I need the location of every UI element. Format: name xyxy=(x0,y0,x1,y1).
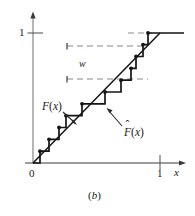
true-cdf-label-paren-close: ) xyxy=(58,100,62,112)
y-axis-arrowhead xyxy=(30,12,35,19)
empirical-cdf-staircase xyxy=(33,33,184,163)
x-axis-tick-label-1: 1 xyxy=(157,168,163,179)
step-dot xyxy=(146,31,150,35)
step-dot xyxy=(129,66,133,70)
circumflex-accent-icon: ˆ xyxy=(126,120,130,132)
cdf-plot xyxy=(0,0,195,216)
empirical-cdf-leader-arrowhead xyxy=(107,108,113,113)
x-axis-arrowhead xyxy=(179,160,186,165)
step-dot xyxy=(80,102,84,106)
width-annotation-label: w xyxy=(79,59,86,69)
step-dot xyxy=(141,43,145,47)
empirical-cdf-label-F-hat: ˆF xyxy=(124,127,131,139)
step-dot xyxy=(119,78,123,82)
figure-caption: (b) xyxy=(88,190,101,201)
true-cdf-label: F(x) xyxy=(42,101,62,113)
step-dot xyxy=(57,126,61,130)
empirical-cdf-paren-close: ) xyxy=(140,126,144,138)
true-cdf-line xyxy=(33,33,160,163)
x-axis-label: x xyxy=(174,167,179,178)
step-dot xyxy=(47,137,51,141)
step-dot xyxy=(38,149,42,153)
step-dot xyxy=(134,55,138,59)
empirical-cdf-label: ˆF(x) xyxy=(124,127,144,139)
step-dot xyxy=(103,90,107,94)
true-cdf-label-F: F xyxy=(42,100,49,112)
figure-panel-b: 1 0 1 x w F(x) ˆF(x) (b) xyxy=(0,0,195,216)
y-axis-tick-label-1: 1 xyxy=(19,27,25,38)
empirical-cdf-leader-line xyxy=(109,111,122,126)
origin-label: 0 xyxy=(29,168,35,179)
caption-paren-close: ) xyxy=(97,189,101,201)
